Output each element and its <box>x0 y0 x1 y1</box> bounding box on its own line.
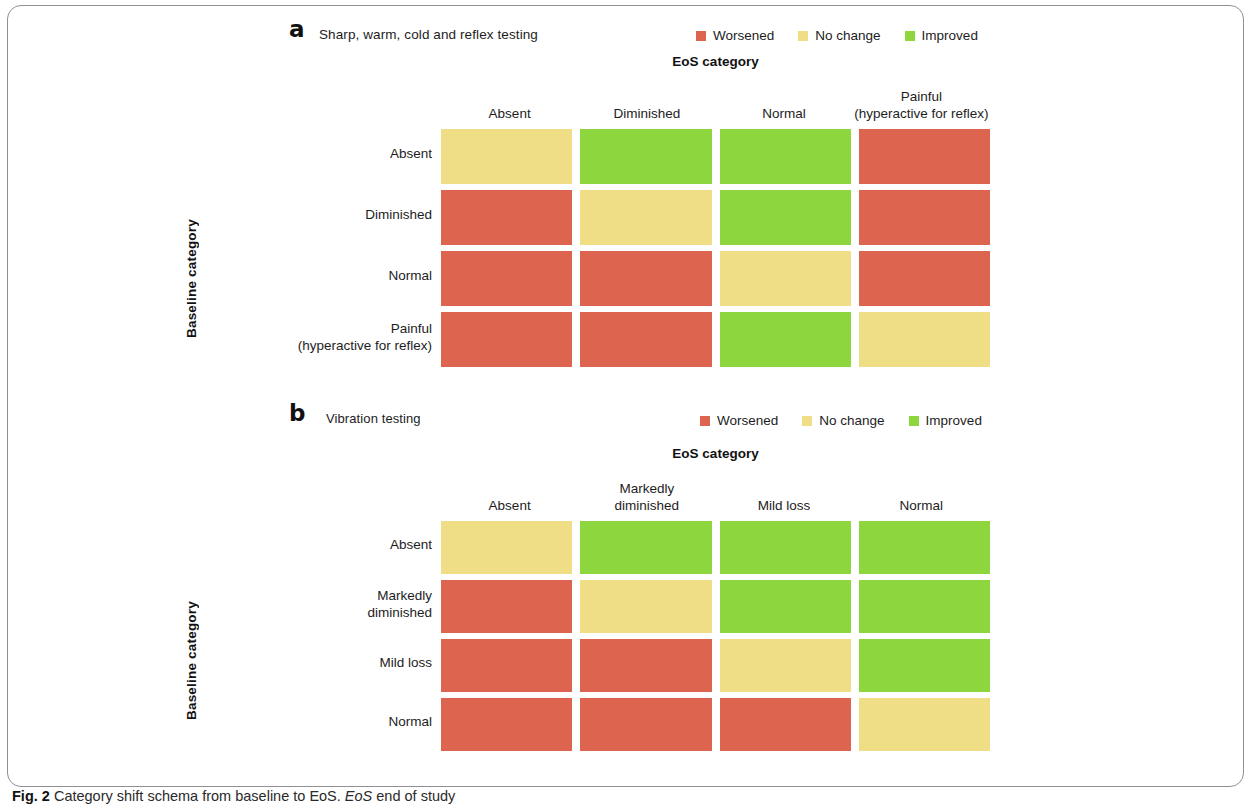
legend-label-worsened: Worsened <box>713 28 774 43</box>
row-label: Markedly diminished <box>204 577 432 630</box>
legend-label-nochange: No change <box>819 413 884 428</box>
matrix-cell-improved <box>580 521 711 574</box>
legend-swatch-nochange-icon <box>798 31 808 41</box>
panel-b-x-axis-title: EoS category <box>441 446 990 461</box>
caption-label: Fig. 2 <box>12 788 50 804</box>
legend-swatch-improved-icon <box>905 31 915 41</box>
matrix-row <box>441 639 990 692</box>
legend-swatch-improved-icon <box>909 416 919 426</box>
column-header: Absent <box>441 497 578 518</box>
matrix-cell-improved <box>859 580 990 633</box>
legend-item-worsened: Worsened <box>700 413 778 428</box>
matrix-cell-worsened <box>859 190 990 245</box>
matrix-cell-worsened <box>441 190 572 245</box>
matrix-cell-worsened <box>441 698 572 751</box>
row-label: Diminished <box>204 187 432 242</box>
legend-item-nochange: No change <box>798 28 880 43</box>
matrix-cell-improved <box>580 129 711 184</box>
legend-swatch-nochange-icon <box>802 416 812 426</box>
panel-a-x-axis-title: EoS category <box>441 54 990 69</box>
legend-label-worsened: Worsened <box>717 413 778 428</box>
panel-b-matrix: Absent Markedly diminished Mild loss Nor… <box>441 470 990 751</box>
column-header: Mild loss <box>716 497 853 518</box>
matrix-cell-worsened <box>859 129 990 184</box>
panel-a-row-labels: Absent Diminished Normal Painful (hypera… <box>204 126 432 370</box>
matrix-cell-worsened <box>441 580 572 633</box>
column-header: Diminished <box>578 105 715 126</box>
column-header: Normal <box>853 497 990 518</box>
matrix-cell-nochange <box>580 580 711 633</box>
matrix-cell-nochange <box>859 312 990 367</box>
column-header-line2: (hyperactive for reflex) <box>853 105 990 122</box>
row-label-line1: Absent <box>390 536 432 553</box>
caption-tail: end of study <box>372 788 455 804</box>
matrix-row <box>441 698 990 751</box>
matrix-cell-improved <box>859 521 990 574</box>
legend-swatch-worsened-icon <box>696 31 706 41</box>
caption-text: Category shift schema from baseline to E… <box>50 788 345 804</box>
panel-b-y-axis-title: Baseline category <box>184 546 199 776</box>
row-label: Normal <box>204 248 432 303</box>
row-label-line1: Normal <box>388 267 432 284</box>
figure-frame: a Sharp, warm, cold and reflex testing W… <box>7 5 1244 787</box>
column-header-line1: Markedly <box>619 481 674 496</box>
matrix-cell-worsened <box>580 251 711 306</box>
legend-item-improved: Improved <box>909 413 982 428</box>
panel-a-matrix: Absent Diminished Normal Painful (hypera… <box>441 78 990 367</box>
matrix-cell-worsened <box>580 698 711 751</box>
matrix-cell-nochange <box>441 129 572 184</box>
figure-caption: Fig. 2 Category shift schema from baseli… <box>12 788 455 804</box>
column-header-line1: Absent <box>489 106 531 121</box>
column-header-line2: diminished <box>578 497 715 514</box>
panel-a-grid <box>441 129 990 367</box>
matrix-cell-improved <box>720 521 851 574</box>
matrix-cell-nochange <box>720 639 851 692</box>
panel-a-header: a Sharp, warm, cold and reflex testing W… <box>8 16 1243 52</box>
panel-b-letter: b <box>289 400 305 426</box>
matrix-cell-worsened <box>441 312 572 367</box>
column-header-line1: Painful <box>901 89 942 104</box>
legend-swatch-worsened-icon <box>700 416 710 426</box>
column-header-line1: Normal <box>900 498 944 513</box>
panel-b-header: b Vibration testing Worsened No change I… <box>8 398 1243 434</box>
row-label-line1: Diminished <box>365 206 432 223</box>
legend-item-nochange: No change <box>802 413 884 428</box>
row-label-line1: Absent <box>390 145 432 162</box>
caption-abbrev: EoS <box>345 788 372 804</box>
legend-item-worsened: Worsened <box>696 28 774 43</box>
matrix-row <box>441 312 990 367</box>
panel-a-letter: a <box>289 16 304 42</box>
matrix-row <box>441 190 990 245</box>
matrix-cell-worsened <box>859 251 990 306</box>
panel-b-title: Vibration testing <box>326 411 421 426</box>
column-header: Markedly diminished <box>578 480 715 518</box>
matrix-cell-worsened <box>720 698 851 751</box>
panel-a: a Sharp, warm, cold and reflex testing W… <box>8 16 1243 52</box>
column-header-line1: Normal <box>762 106 806 121</box>
matrix-cell-worsened <box>441 251 572 306</box>
row-label-line1: Mild loss <box>379 654 432 671</box>
matrix-cell-nochange <box>441 521 572 574</box>
matrix-cell-nochange <box>720 251 851 306</box>
panel-a-column-headers: Absent Diminished Normal Painful (hypera… <box>441 78 990 126</box>
matrix-cell-worsened <box>580 312 711 367</box>
panel-a-title: Sharp, warm, cold and reflex testing <box>319 27 538 42</box>
row-label-line1: Markedly <box>377 587 432 604</box>
row-label-line1: Painful <box>391 320 432 337</box>
matrix-cell-nochange <box>859 698 990 751</box>
matrix-cell-improved <box>859 639 990 692</box>
column-header: Absent <box>441 105 578 126</box>
panel-b-column-headers: Absent Markedly diminished Mild loss Nor… <box>441 470 990 518</box>
row-label: Absent <box>204 518 432 571</box>
column-header-line1: Diminished <box>613 106 680 121</box>
column-header: Painful (hyperactive for reflex) <box>853 88 990 126</box>
row-label: Painful (hyperactive for reflex) <box>204 309 432 364</box>
column-header: Normal <box>716 105 853 126</box>
legend-item-improved: Improved <box>905 28 978 43</box>
row-label-line2: (hyperactive for reflex) <box>298 337 432 354</box>
panel-a-y-axis-title: Baseline category <box>184 164 199 394</box>
matrix-cell-improved <box>720 580 851 633</box>
row-label: Mild loss <box>204 636 432 689</box>
row-label-line2: diminished <box>367 604 432 621</box>
legend-label-nochange: No change <box>815 28 880 43</box>
